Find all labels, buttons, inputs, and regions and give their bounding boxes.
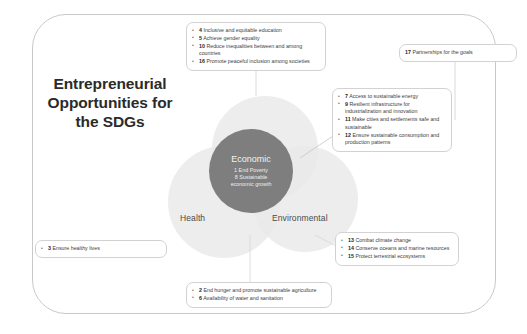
- callout-health: 3 Ensure healthy lives: [35, 240, 167, 258]
- callout-partnerships: 17 Partnerships for the goals: [399, 44, 517, 62]
- callout-food-water-list: 2 End hunger and promote sustainable agr…: [192, 287, 324, 302]
- core-title: Economic: [231, 154, 271, 165]
- callout-social: 4 Inclusive and equitable education5 Ach…: [186, 22, 326, 71]
- list-item: 16 Promote peaceful inclusion among soci…: [192, 58, 318, 65]
- core-goal-1: 1 End Poverty: [228, 167, 274, 174]
- list-item: 13 Combat climate change: [341, 237, 451, 244]
- goal-text: Combat climate change: [354, 237, 411, 243]
- list-item: 9 Resilient infrastructure for industria…: [338, 101, 444, 116]
- goal-text: End hunger and promote sustainable agric…: [202, 287, 317, 293]
- list-item: 11 Make cities and settlements safe and …: [338, 116, 444, 131]
- callout-environmental-list: 13 Combat climate change14 Conserve ocea…: [341, 237, 451, 260]
- list-item: 10 Reduce inequalities between and among…: [192, 43, 318, 58]
- goal-text: Ensure sustainable consumption and produ…: [345, 132, 439, 145]
- venn-label-health: Health: [180, 213, 205, 223]
- goal-text: Resilient infrastructure for industriali…: [345, 101, 417, 114]
- goal-text: Ensure healthy lives: [51, 245, 100, 251]
- callout-health-list: 3 Ensure healthy lives: [41, 245, 159, 252]
- venn-diagram: Social Health Environmental Economic 1 E…: [160, 96, 360, 278]
- list-item: 7 Access to sustainable energy: [338, 93, 444, 100]
- callout-environmental: 13 Combat climate change14 Conserve ocea…: [335, 232, 459, 266]
- goal-text: Promote peaceful inclusion among societi…: [205, 58, 310, 64]
- callout-social-list: 4 Inclusive and equitable education5 Ach…: [192, 27, 318, 66]
- list-item: 4 Inclusive and equitable education: [192, 27, 318, 34]
- core-goal-8-line2: economic growth: [225, 181, 278, 188]
- goal-text: Conserve oceans and marine resources: [354, 245, 449, 251]
- venn-core-economic: Economic 1 End Poverty 8 Sustainable eco…: [209, 129, 293, 213]
- list-item: 15 Protect terrestrial ecosystems: [341, 253, 451, 260]
- list-item: 17 Partnerships for the goals: [405, 49, 509, 56]
- list-item: 3 Ensure healthy lives: [41, 245, 159, 252]
- goal-text: Availability of water and sanitation: [202, 295, 283, 301]
- callout-economic: 7 Access to sustainable energy9 Resilien…: [332, 88, 452, 152]
- core-goal-8-line1: 8 Sustainable: [229, 174, 274, 181]
- list-item: 14 Conserve oceans and marine resources: [341, 245, 451, 252]
- list-item: 6 Availability of water and sanitation: [192, 295, 324, 302]
- list-item: 5 Achieve gender equality: [192, 35, 318, 42]
- goal-text: Make cities and settlements safe and sus…: [345, 116, 439, 129]
- goal-text: Inclusive and equitable education: [202, 27, 282, 33]
- venn-label-environmental: Environmental: [272, 213, 328, 223]
- callout-food-water: 2 End hunger and promote sustainable agr…: [186, 282, 332, 308]
- callout-partnerships-list: 17 Partnerships for the goals: [405, 49, 509, 56]
- goal-text: Protect terrestrial ecosystems: [354, 253, 425, 259]
- list-item: 12 Ensure sustainable consumption and pr…: [338, 132, 444, 147]
- goal-text: Access to sustainable energy: [348, 93, 418, 99]
- diagram-canvas: Entrepreneurial Opportunities for the SD…: [0, 0, 527, 334]
- callout-economic-list: 7 Access to sustainable energy9 Resilien…: [338, 93, 444, 146]
- goal-text: Reduce inequalities between and among co…: [199, 43, 302, 56]
- goal-text: Partnerships for the goals: [411, 49, 473, 55]
- goal-text: Achieve gender equality: [202, 35, 260, 41]
- list-item: 2 End hunger and promote sustainable agr…: [192, 287, 324, 294]
